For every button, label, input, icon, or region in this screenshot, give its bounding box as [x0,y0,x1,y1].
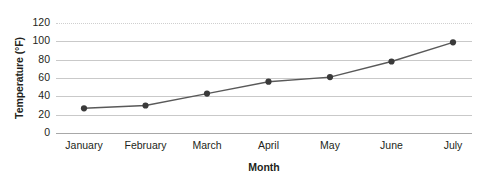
line-chart: Temperature (°F) 020406080100120 January… [0,0,485,182]
y-axis-tick-label: 0 [18,127,50,138]
series-line-temperature [56,23,472,133]
data-point-marker [142,102,148,108]
data-point-marker [450,39,456,45]
data-point-marker [81,105,87,111]
data-point-marker [265,79,271,85]
series-line [84,42,453,108]
gridline [56,133,472,134]
x-axis-tick-label: July [408,139,485,151]
y-axis-tick-label: 20 [18,109,50,120]
y-axis-tick-label: 120 [18,17,50,28]
y-axis-tick-label: 60 [18,72,50,83]
y-axis-tick-label: 100 [18,35,50,46]
y-axis-tick-label: 40 [18,90,50,101]
plot-area [56,23,472,133]
x-axis-title: Month [56,161,472,174]
data-point-marker [204,91,210,97]
data-point-marker [388,58,394,64]
y-axis-tick-label: 80 [18,54,50,65]
data-point-marker [327,74,333,80]
